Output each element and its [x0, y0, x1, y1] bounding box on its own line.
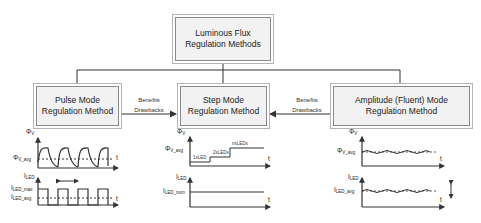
step-line2: Regulation Method: [188, 106, 259, 117]
step-label-1: 1xLED: [193, 155, 207, 160]
amplitude-current-plot: [362, 178, 451, 207]
amplitude-flux-avg-label: ΦV_avg: [337, 147, 355, 155]
pulse-flux-axis-label: ΦV: [26, 128, 34, 136]
amplitude-current-avg-label: ILED_avg: [334, 186, 354, 194]
amplitude-t-label-1: t: [440, 155, 442, 162]
step-flux-avg-label: ΦV_avg: [165, 145, 183, 153]
step-flux-axis-label: ΦV: [177, 128, 185, 136]
root-box: Luminous FluxRegulation Methods: [175, 17, 271, 61]
amplitude-line1: Amplitude (Fluent) Mode: [355, 95, 448, 106]
step-mode-box: Step ModeRegulation Method: [180, 86, 267, 126]
pulse-t-label-1: t: [116, 154, 118, 161]
amplitude-line2: Regulation Method: [355, 106, 448, 117]
amplitude-mode-box: Amplitude (Fluent) ModeRegulation Method: [333, 86, 470, 126]
root-line2: Regulation Methods: [185, 39, 261, 50]
benefits-label: Benefits: [282, 97, 332, 104]
drawbacks-label: Drawbacks: [124, 107, 174, 114]
step-line1: Step Mode: [188, 95, 259, 106]
benefits-drawbacks-left: Benefits Drawbacks: [124, 97, 174, 114]
drawbacks-label: Drawbacks: [282, 107, 332, 114]
pulse-line2: Regulation Method: [42, 106, 113, 117]
pulse-mode-box: Pulse ModeRegulation Method: [36, 86, 119, 126]
benefits-label: Benefits: [124, 97, 174, 104]
root-line1: Luminous Flux: [185, 28, 261, 39]
step-current-plot: [190, 178, 270, 207]
pulse-flux-avg-label: ΦV_avg: [13, 154, 31, 162]
amplitude-current-axis-label: ILED: [348, 173, 359, 181]
step-flux-plot: [190, 137, 270, 166]
pulse-current-avg-label: ILED_avg: [11, 193, 31, 201]
amplitude-t-label-2: t: [440, 196, 442, 203]
pulse-flux-plot: [38, 138, 118, 168]
pulse-current-max-label: ILED_max: [11, 184, 33, 192]
step-label-3: nxLEDs: [232, 141, 248, 146]
step-t-label-1: t: [268, 155, 270, 162]
pulse-line1: Pulse Mode: [42, 95, 113, 106]
step-label-2: 2xLEDs: [213, 150, 229, 155]
benefits-drawbacks-right: Benefits Drawbacks: [282, 97, 332, 114]
tree-connectors: [77, 61, 400, 84]
pulse-current-plot: [38, 178, 118, 205]
pulse-t-label-2: t: [116, 195, 118, 202]
amplitude-flux-plot: [362, 137, 444, 166]
step-current-nom-label: ILED_nom: [163, 187, 185, 195]
step-current-axis-label: ILED: [176, 173, 187, 181]
amplitude-flux-axis-label: ΦV: [349, 128, 357, 136]
pulse-current-axis-label: ILED: [24, 172, 35, 180]
step-t-label-2: t: [268, 196, 270, 203]
